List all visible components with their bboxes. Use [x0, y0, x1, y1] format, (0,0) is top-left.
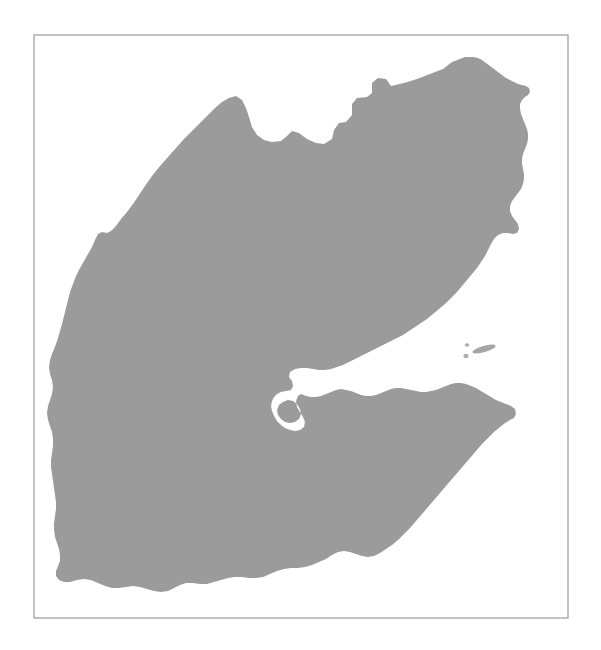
small-islet	[463, 354, 468, 358]
map-figure	[0, 0, 601, 650]
maskali-island	[465, 343, 470, 347]
map-canvas	[0, 0, 601, 650]
